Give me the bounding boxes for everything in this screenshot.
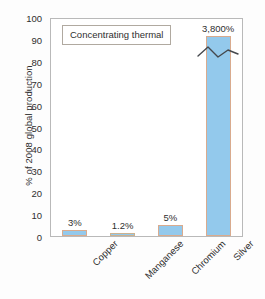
bar-chromium[interactable] — [158, 225, 183, 236]
bar-group-silver: 3,800% — [206, 19, 231, 236]
bar-group-chromium: 5% — [158, 19, 183, 236]
y-axis-tick-label: 40 — [31, 144, 42, 155]
bar-group-copper: 3% — [62, 19, 87, 236]
y-axis-tick-label: 0 — [37, 232, 42, 243]
bar-value-label-copper: 3% — [68, 217, 82, 228]
y-axis-tick-label: 20 — [31, 188, 42, 199]
y-axis-tick-label: 10 — [31, 210, 42, 221]
bar-value-label-manganese: 1.2% — [112, 220, 134, 231]
x-axis-tick-label-copper: Copper — [90, 238, 120, 268]
x-axis-tick-labels: CopperManganeseChromiumSilver — [51, 238, 242, 296]
y-axis-tick-label: 50 — [31, 122, 42, 133]
y-axis-tick-label: 90 — [31, 34, 42, 45]
y-axis-tick-labels: 0102030405060708090100 — [0, 18, 46, 237]
x-axis-tick-label-manganese: Manganese — [143, 238, 186, 281]
bar-chart: % of 2008 global production 010203040506… — [0, 0, 265, 299]
bar-value-label-silver: 3,800% — [202, 23, 234, 34]
chart-title-box: Concentrating thermal — [62, 25, 171, 45]
y-axis-tick-label: 100 — [26, 13, 42, 24]
y-axis-tick-label: 70 — [31, 78, 42, 89]
bars-layer: 3%1.2%5%3,800% — [51, 19, 242, 236]
bar-value-label-chromium: 5% — [163, 212, 177, 223]
bar-silver[interactable] — [206, 36, 231, 236]
y-axis-tick-label: 30 — [31, 166, 42, 177]
y-axis-tick-label: 80 — [31, 56, 42, 67]
bar-manganese[interactable] — [110, 233, 135, 236]
bar-group-manganese: 1.2% — [110, 19, 135, 236]
y-axis-tick-label: 60 — [31, 100, 42, 111]
x-axis-tick-label-silver: Silver — [231, 238, 256, 263]
x-axis-tick-label-chromium: Chromium — [189, 238, 228, 277]
bar-copper[interactable] — [62, 230, 87, 237]
